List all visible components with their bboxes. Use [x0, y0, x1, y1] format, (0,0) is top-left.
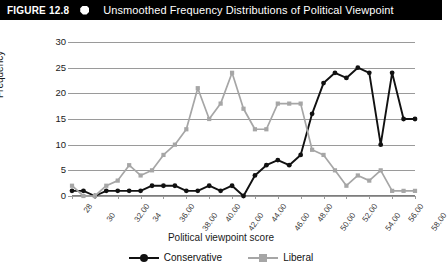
data-point-marker — [150, 183, 155, 188]
data-point-marker — [104, 188, 109, 193]
plot-area: Frequency 051015202530 283032.003436.003… — [0, 20, 442, 276]
data-point-marker — [276, 102, 280, 106]
y-axis-tick-mark — [68, 170, 73, 171]
legend-item-liberal: Liberal — [248, 252, 313, 263]
y-axis-tick-label: 15 — [40, 113, 66, 124]
data-point-marker — [367, 179, 371, 183]
y-axis-tick-label: 10 — [40, 139, 66, 150]
data-point-marker — [195, 188, 200, 193]
x-axis-tick-label: 38.00 — [201, 211, 220, 233]
data-point-marker — [264, 163, 269, 168]
x-axis-tick-mark — [324, 196, 325, 199]
data-point-marker — [333, 70, 338, 75]
figure-title: Unsmoothed Frequency Distributions of Po… — [103, 4, 393, 16]
data-point-marker — [275, 158, 280, 163]
data-point-marker — [310, 148, 314, 152]
x-axis-tick-label: 48.00 — [315, 202, 334, 224]
x-axis-tick-mark — [118, 196, 119, 199]
series-lines-group — [72, 42, 415, 196]
data-point-marker — [413, 117, 418, 122]
legend-label-conservative: Conservative — [164, 252, 222, 263]
data-point-marker — [390, 189, 394, 193]
data-point-marker — [241, 194, 246, 199]
data-point-marker — [253, 173, 258, 178]
x-axis-tick-mark — [163, 196, 164, 199]
data-point-marker — [321, 153, 325, 157]
figure-number-label: FIGURE 12.8 — [7, 5, 69, 16]
octagon-bullet-icon — [80, 6, 89, 15]
data-point-marker — [390, 70, 395, 75]
data-point-marker — [378, 142, 383, 147]
x-axis-tick-mark — [72, 196, 73, 199]
data-point-marker — [241, 107, 245, 111]
data-point-marker — [184, 127, 188, 131]
x-axis-title: Political viewpoint score — [0, 232, 442, 243]
legend-label-liberal: Liberal — [283, 252, 313, 263]
x-axis-tick-label: 32.00 — [132, 202, 151, 224]
x-axis-tick-mark — [392, 196, 393, 199]
x-axis-tick-label: 30 — [105, 211, 117, 223]
data-point-marker — [367, 70, 372, 75]
data-point-marker — [196, 86, 200, 90]
x-axis-tick-mark — [209, 196, 210, 199]
y-axis-tick-mark — [68, 93, 73, 94]
x-axis-tick-label: 58.00 — [430, 211, 448, 233]
data-point-marker — [184, 188, 189, 193]
data-point-marker — [253, 127, 257, 131]
x-axis-tick-mark — [346, 196, 347, 199]
data-point-marker — [356, 173, 360, 177]
legend-swatch-liberal — [248, 253, 278, 263]
x-axis-tick-label: 50.00 — [338, 211, 357, 233]
data-point-marker — [127, 188, 132, 193]
series-line-conservative — [72, 68, 415, 196]
x-axis-tick-label: 46.00 — [292, 211, 311, 233]
x-axis-tick-mark — [141, 196, 142, 199]
x-axis-tick-mark — [278, 196, 279, 199]
chart-legend: Conservative Liberal — [0, 252, 442, 263]
data-point-marker — [287, 163, 292, 168]
y-axis-tick-mark — [68, 119, 73, 120]
x-axis-tick-mark — [95, 196, 96, 199]
data-point-marker — [161, 153, 165, 157]
y-axis-title: Frequency — [0, 51, 5, 98]
figure-header-bar: FIGURE 12.8 Unsmoothed Frequency Distrib… — [0, 0, 442, 20]
data-point-marker — [139, 173, 143, 177]
data-point-marker — [355, 65, 360, 70]
data-point-marker — [264, 127, 268, 131]
data-point-marker — [344, 184, 348, 188]
data-point-marker — [230, 183, 235, 188]
data-point-marker — [310, 111, 315, 116]
x-axis-tick-mark — [369, 196, 370, 199]
data-point-marker — [127, 163, 131, 167]
data-point-marker — [299, 102, 303, 106]
data-point-marker — [298, 153, 303, 158]
data-point-marker — [413, 189, 417, 193]
x-axis-tick-mark — [415, 196, 416, 199]
y-axis-tick-label: 30 — [40, 36, 66, 47]
x-axis-tick-label: 56.00 — [407, 202, 426, 224]
x-axis-tick-label: 40.00 — [224, 202, 243, 224]
legend-swatch-conservative — [129, 253, 159, 263]
y-axis-tick-label: 25 — [40, 62, 66, 73]
data-point-marker — [173, 183, 178, 188]
data-point-marker — [116, 179, 120, 183]
x-axis-tick-mark — [301, 196, 302, 199]
data-point-marker — [104, 184, 108, 188]
y-axis-tick-mark — [68, 42, 73, 43]
x-axis-tick-label: 28 — [82, 202, 94, 214]
y-axis-tick-label: 0 — [40, 190, 66, 201]
y-axis-tick-mark — [68, 68, 73, 69]
data-point-marker — [115, 188, 120, 193]
x-axis-tick-mark — [186, 196, 187, 199]
data-point-marker — [207, 183, 212, 188]
data-point-marker — [150, 168, 154, 172]
x-axis-tick-mark — [255, 196, 256, 199]
data-point-marker — [401, 117, 406, 122]
y-axis-tick-label: 20 — [40, 87, 66, 98]
data-point-marker — [379, 168, 383, 172]
x-axis-tick-label: 36.00 — [178, 202, 197, 224]
data-point-marker — [287, 102, 291, 106]
data-point-marker — [81, 194, 85, 198]
data-point-marker — [333, 168, 337, 172]
